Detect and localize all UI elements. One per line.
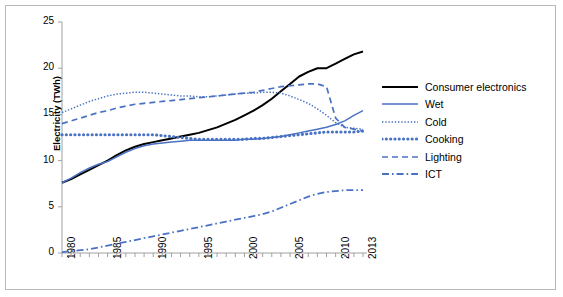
legend-label: ICT [425, 168, 442, 180]
legend-label: Cooking [425, 133, 464, 145]
legend-item[interactable]: Wet [382, 96, 557, 114]
series-line-ict [62, 190, 363, 252]
legend-line-icon [382, 81, 418, 93]
line-chart: Electricity (TWh) 0510152025 19801985199… [0, 0, 563, 297]
legend-line-icon [382, 98, 418, 110]
chart-legend: Consumer electronicsWetColdCookingLighti… [382, 78, 557, 183]
series-line-wet [62, 111, 363, 183]
legend-line-icon [382, 116, 418, 128]
series-line-lighting [62, 84, 363, 131]
legend-line-icon [382, 133, 418, 145]
legend-label: Wet [425, 98, 443, 110]
legend-line-icon [382, 168, 418, 180]
legend-label: Lighting [425, 151, 462, 163]
legend-item[interactable]: Lighting [382, 148, 557, 166]
legend-label: Consumer electronics [425, 81, 527, 93]
series-line-cooking [62, 131, 363, 139]
legend-item[interactable]: Cooking [382, 131, 557, 149]
legend-label: Cold [425, 116, 447, 128]
legend-line-icon [382, 151, 418, 163]
legend-item[interactable]: Cold [382, 113, 557, 131]
series-line-cold [62, 92, 363, 129]
legend-item[interactable]: Consumer electronics [382, 78, 557, 96]
series-line-consumer-electronics [62, 52, 363, 183]
legend-item[interactable]: ICT [382, 166, 557, 184]
